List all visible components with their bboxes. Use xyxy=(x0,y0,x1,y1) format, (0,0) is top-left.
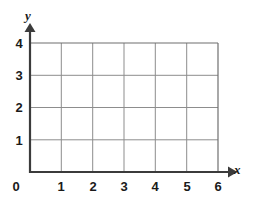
coordinate-plane-svg xyxy=(0,0,256,202)
x-axis xyxy=(29,167,238,178)
x-tick-label-0: 0 xyxy=(8,180,24,193)
x-tick-label-1: 1 xyxy=(53,180,69,193)
x-axis-label: x xyxy=(234,163,241,176)
y-tick-label-1: 1 xyxy=(11,134,27,147)
y-tick-label-4: 4 xyxy=(11,37,27,50)
coordinate-grid-figure: y x 4 3 2 1 0 1 2 3 4 5 6 xyxy=(0,0,256,202)
y-axis-label: y xyxy=(25,9,31,22)
y-axis-arrow-icon xyxy=(25,23,36,32)
x-tick-label-3: 3 xyxy=(116,180,132,193)
x-tick-label-4: 4 xyxy=(147,180,163,193)
y-tick-label-3: 3 xyxy=(11,69,27,82)
x-tick-label-6: 6 xyxy=(210,180,226,193)
x-tick-label-5: 5 xyxy=(179,180,195,193)
y-tick-label-2: 2 xyxy=(11,101,27,114)
x-tick-label-2: 2 xyxy=(85,180,101,193)
